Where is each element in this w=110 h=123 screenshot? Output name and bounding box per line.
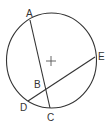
circle: [7, 13, 97, 108]
point-label-d: D: [20, 102, 27, 113]
point-label-a: A: [26, 8, 33, 19]
point-label-e: E: [98, 51, 105, 62]
point-label-c: C: [47, 112, 54, 123]
chord-ac: [30, 20, 50, 108]
diagram-canvas: A B C D E: [0, 0, 110, 123]
circle-diagram: A B C D E: [0, 0, 110, 123]
center-mark-icon: [46, 56, 56, 66]
point-label-b: B: [34, 79, 41, 90]
